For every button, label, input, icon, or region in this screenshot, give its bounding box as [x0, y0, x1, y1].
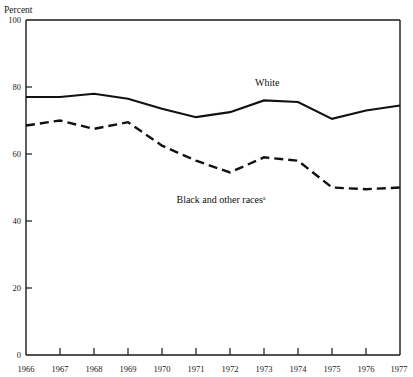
series-line-black-and-other-races: [26, 121, 400, 190]
y-axis-ticks: [26, 87, 32, 288]
x-tick-label: 1968: [86, 364, 103, 374]
y-tick-label: 0: [17, 350, 21, 360]
x-axis-tick-labels: 1966196719681969197019711972197319741975…: [18, 364, 408, 374]
x-tick-label: 1966: [18, 364, 35, 374]
x-tick-label: 1972: [222, 364, 239, 374]
y-tick-label: 60: [13, 149, 22, 159]
x-tick-label: 1977: [391, 364, 408, 374]
x-tick-label: 1973: [256, 364, 273, 374]
y-tick-label: 40: [13, 216, 22, 226]
chart-container: Percent 020406080100 1966196719681969197…: [0, 0, 413, 377]
y-tick-label: 20: [13, 283, 22, 293]
line-chart-svg: Percent 020406080100 1966196719681969197…: [0, 0, 413, 377]
series-line-white: [26, 94, 400, 119]
y-axis-title: Percent: [4, 5, 33, 15]
x-tick-label: 1974: [290, 364, 308, 374]
y-tick-label: 80: [13, 82, 22, 92]
x-tick-label: 1976: [358, 364, 375, 374]
y-tick-label: 100: [8, 15, 21, 25]
x-tick-label: 1969: [120, 364, 137, 374]
x-tick-label: 1975: [324, 364, 341, 374]
series-label-black-and-other-races: Black and other racesa: [176, 194, 265, 205]
x-tick-label: 1970: [154, 364, 171, 374]
y-axis-tick-labels: 020406080100: [8, 15, 21, 360]
x-tick-label: 1967: [52, 364, 69, 374]
series-label-white: White: [255, 77, 280, 88]
x-tick-label: 1971: [188, 364, 205, 374]
plot-frame: [26, 20, 400, 355]
x-axis-ticks: [60, 348, 366, 355]
